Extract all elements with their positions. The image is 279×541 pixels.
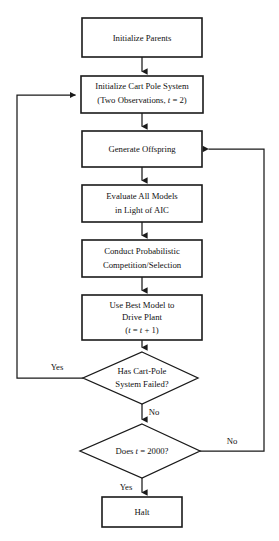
node-initialize-cart-pole: Initialize Cart Pole System (Two Observa… <box>81 76 203 113</box>
initialize-cart-pole-label-line2: (Two Observations, t = 2) <box>97 95 187 105</box>
node-conduct-competition: Conduct Probabilistic Competition/Select… <box>82 240 202 277</box>
edge-t2000-no-loop <box>200 149 264 451</box>
evaluate-models-label-line1: Evaluate All Models <box>106 191 178 201</box>
node-halt: Halt <box>102 497 182 527</box>
evaluate-models-label-line2: in Light of AIC <box>115 205 169 215</box>
has-cart-pole-failed-diamond <box>83 352 198 404</box>
initialize-parents-label: Initialize Parents <box>113 33 172 43</box>
halt-label: Halt <box>135 507 151 517</box>
flowchart-diagram: Initialize Parents Initialize Cart Pole … <box>0 0 279 541</box>
node-has-cart-pole-failed: Has Cart-Pole System Failed? <box>83 352 198 404</box>
node-evaluate-models: Evaluate All Models in Light of AIC <box>82 185 202 222</box>
edge-label-failed-yes: Yes <box>51 362 64 372</box>
has-cart-pole-failed-label-line2: System Failed? <box>115 379 168 389</box>
edge-label-failed-no: No <box>149 407 160 417</box>
flowchart-canvas: Initialize Parents Initialize Cart Pole … <box>0 0 279 541</box>
initialize-cart-pole-label-line1: Initialize Cart Pole System <box>95 81 189 91</box>
node-does-t-equal-2000: Does t = 2000? <box>80 424 200 478</box>
edge-label-t2000-no: No <box>227 436 238 446</box>
conduct-competition-label-line1: Conduct Probabilistic <box>104 246 180 256</box>
node-initialize-parents: Initialize Parents <box>82 18 202 57</box>
edge-failed-yes-loop <box>17 95 83 378</box>
conduct-competition-label-line2: Competition/Selection <box>103 260 182 270</box>
generate-offspring-label: Generate Offspring <box>108 144 176 154</box>
use-best-model-label-line3: (t = t + 1) <box>125 325 159 335</box>
use-best-model-label-line1: Use Best Model to <box>110 300 176 310</box>
edge-label-t2000-yes: Yes <box>120 482 133 492</box>
node-generate-offspring: Generate Offspring <box>82 131 202 167</box>
has-cart-pole-failed-label-line1: Has Cart-Pole <box>118 366 167 376</box>
node-use-best-model: Use Best Model to Drive Plant (t = t + 1… <box>82 295 202 340</box>
use-best-model-label-line2: Drive Plant <box>122 312 162 322</box>
does-t-equal-2000-label: Does t = 2000? <box>116 446 169 456</box>
